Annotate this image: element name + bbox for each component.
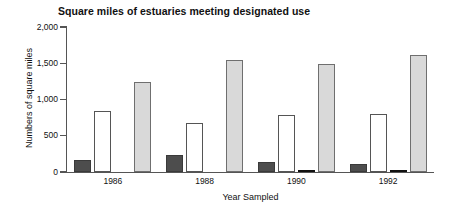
bar-group xyxy=(159,27,251,172)
bar-light-gray-series-1990 xyxy=(318,64,335,172)
y-tick-label: 1,500 xyxy=(10,58,58,68)
x-tick-label-1990: 1990 xyxy=(266,176,326,186)
x-tick-label-1992: 1992 xyxy=(358,176,418,186)
bar-white-series-1990 xyxy=(278,115,295,172)
y-tick-mark xyxy=(60,63,66,64)
bar-dark-gray-series-1986 xyxy=(74,160,91,172)
x-tick-label-1988: 1988 xyxy=(175,176,235,186)
y-tick-mark xyxy=(60,171,66,172)
bar-black-series-1990 xyxy=(298,170,315,172)
bar-light-gray-series-1986 xyxy=(134,82,151,172)
bar-light-gray-series-1988 xyxy=(226,60,243,172)
bar-group xyxy=(251,27,343,172)
y-tick-label: 2,000 xyxy=(10,22,58,32)
bar-group xyxy=(67,27,159,172)
bar-dark-gray-series-1990 xyxy=(258,162,275,173)
bar-light-gray-series-1992 xyxy=(410,55,427,172)
y-tick-mark xyxy=(60,135,66,136)
chart-title: Square miles of estuaries meeting design… xyxy=(58,5,438,17)
bar-dark-gray-series-1992 xyxy=(350,164,367,172)
bar-group xyxy=(342,27,434,172)
bar-black-series-1992 xyxy=(390,170,407,172)
y-tick-label: 0 xyxy=(10,167,58,177)
bar-chart: Square miles of estuaries meeting design… xyxy=(0,0,449,211)
plot-area xyxy=(67,27,434,172)
x-axis-line xyxy=(67,172,434,173)
x-tick-label-1986: 1986 xyxy=(83,176,143,186)
y-tick-mark xyxy=(60,26,66,27)
y-tick-mark xyxy=(60,99,66,100)
bar-white-series-1986 xyxy=(94,111,111,172)
bar-white-series-1992 xyxy=(370,114,387,172)
y-tick-label: 500 xyxy=(10,130,58,140)
bar-white-series-1988 xyxy=(186,123,203,172)
bar-dark-gray-series-1988 xyxy=(166,155,183,172)
x-axis-title: Year Sampled xyxy=(67,192,434,202)
y-tick-label: 1,000 xyxy=(10,94,58,104)
